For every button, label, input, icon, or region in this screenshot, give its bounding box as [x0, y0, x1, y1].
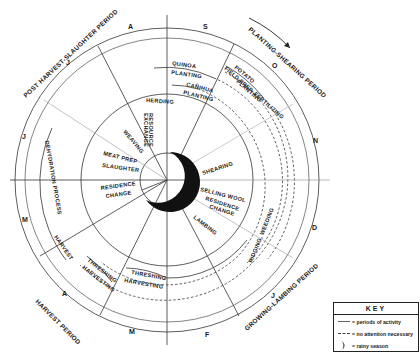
solid-line-icon: [338, 321, 350, 322]
month-label: S: [203, 23, 208, 30]
month-label: D: [312, 224, 317, 231]
legend-item-rainy: = rainy season: [334, 340, 418, 351]
period-label: HARVEST PERIOD: [34, 298, 82, 346]
crescent-icon: [338, 341, 346, 350]
month-label: N: [313, 137, 318, 144]
activity-label: EXCHANGE: [143, 113, 149, 147]
activity-label: WEAVING: [122, 129, 145, 155]
month-label: F: [205, 331, 210, 338]
legend-item-activity: = periods of activity: [334, 316, 418, 327]
potato-dashed-arc: [262, 96, 294, 259]
legend-item-no-attention: = no attention necessary: [334, 328, 418, 339]
legend-title: KEY: [334, 303, 418, 315]
month-label: M: [22, 216, 28, 223]
legend-label: = periods of activity: [352, 319, 401, 325]
rainy-season-crescent-icon: [146, 152, 200, 212]
month-label: A: [128, 23, 133, 30]
dashed-line-icon: [338, 333, 350, 334]
legend-label: = no attention necessary: [352, 331, 413, 337]
legend-label: = rainy season: [352, 343, 388, 349]
period-label: POST HARVEST-SLAUGHTER PERIOD: [22, 8, 119, 99]
activity-label: LAMBING: [192, 214, 218, 236]
month-label: J: [22, 133, 26, 140]
month-label: A: [62, 290, 67, 297]
activity-label: CHANGE: [105, 189, 132, 199]
month-label: O: [272, 62, 278, 69]
activity-label: PLANTING: [171, 69, 203, 79]
activity-label: SHEARING: [201, 160, 233, 176]
activity-label: HERDING: [146, 97, 174, 105]
spoke-jf: [180, 204, 239, 316]
legend-key: KEY = periods of activity = no attention…: [333, 302, 419, 352]
month-label: M: [129, 328, 135, 335]
activity-label: DEHYDRATION PROCESS: [44, 140, 63, 215]
spoke-center-fan: [142, 180, 167, 190]
period-label: GROWING-LAMBING PERIOD: [243, 262, 320, 332]
herding-inner-arc: [167, 240, 247, 278]
